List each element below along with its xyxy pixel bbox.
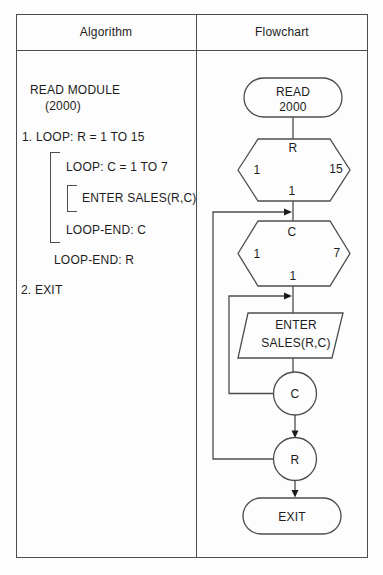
arrowhead-loop-return-r — [284, 209, 292, 216]
connector-circle-c-label: C — [291, 387, 300, 401]
read-terminator-label-line2: 2000 — [279, 100, 307, 114]
arrowhead-loop-return-c — [284, 293, 292, 300]
textbook-diagram-page: Algorithm Flowchart READ MODULE (2000) 1… — [0, 0, 383, 575]
hexagon-c-to-label: 7 — [334, 246, 341, 260]
exit-terminator-label: EXIT — [278, 510, 306, 524]
hexagon-r-to-label: 15 — [329, 162, 343, 176]
enter-parallelogram-label-line2: SALES(R,C) — [261, 336, 330, 350]
connector-circle-r-label: R — [291, 453, 300, 467]
hexagon-r-step-label: 1 — [289, 184, 296, 198]
flowchart-canvas: READ 2000 R 1 15 1 C 1 7 1 ENTER SALES(R… — [0, 0, 383, 575]
hexagon-c-step-label: 1 — [290, 269, 297, 283]
hexagon-c-variable-label: C — [288, 225, 297, 239]
arrowhead-into-exit — [292, 490, 299, 498]
hexagon-r-variable-label: R — [289, 141, 298, 155]
enter-parallelogram-label-line1: ENTER — [275, 318, 317, 332]
hexagon-r-from-label: 1 — [254, 163, 261, 177]
arrowhead-into-circle-r — [292, 431, 299, 439]
hexagon-c-from-label: 1 — [254, 247, 261, 261]
read-terminator-label-line1: READ — [276, 85, 310, 99]
